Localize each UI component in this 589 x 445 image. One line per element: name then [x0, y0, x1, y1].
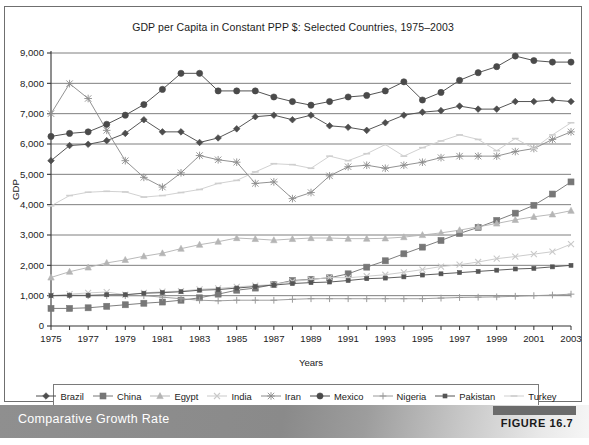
legend-item-egypt[interactable]: Egypt: [145, 390, 202, 402]
data-point: [531, 202, 537, 208]
x-tick-label: 1983: [189, 333, 210, 344]
x-tick-label: 1977: [77, 333, 98, 344]
data-point: [363, 295, 370, 302]
data-point: [317, 393, 323, 399]
data-point: [142, 291, 146, 295]
data-point: [531, 57, 537, 63]
data-point: [512, 98, 519, 105]
y-tick-label: 5,000: [20, 169, 44, 180]
data-point: [179, 290, 183, 294]
data-point: [568, 241, 574, 247]
data-point: [85, 129, 91, 135]
data-point: [345, 94, 351, 100]
y-tick-label: 0: [39, 320, 44, 331]
series-line: [51, 84, 571, 199]
legend-label: Brazil: [60, 391, 83, 402]
data-point: [177, 169, 185, 177]
x-tick-label: 1979: [115, 333, 136, 344]
series-china: [48, 179, 574, 311]
page-bottom-strip: [0, 438, 589, 445]
figure-tab-bar: [493, 406, 576, 415]
data-point: [438, 237, 444, 243]
data-point: [251, 180, 259, 188]
legend-item-india[interactable]: India: [202, 390, 255, 402]
data-point: [328, 280, 332, 284]
data-point: [159, 86, 165, 92]
data-point: [122, 112, 128, 118]
data-point: [493, 293, 500, 300]
series-line: [51, 182, 571, 308]
data-point: [549, 97, 556, 104]
legend-label: Nigeria: [397, 391, 427, 402]
data-point: [493, 106, 500, 113]
data-point: [48, 133, 54, 139]
data-point: [308, 295, 315, 302]
data-point: [494, 64, 500, 70]
data-point: [438, 107, 445, 114]
data-point: [86, 293, 90, 297]
data-point: [271, 94, 277, 100]
data-point: [382, 119, 389, 126]
x-marker-icon: [206, 390, 228, 402]
data-point: [215, 88, 221, 94]
data-point: [289, 116, 296, 123]
data-point: [234, 88, 240, 94]
x-tick-label: 1995: [412, 333, 433, 344]
data-point: [476, 269, 480, 273]
smallsquare-marker-icon: [434, 390, 456, 402]
x-tick-label: 1985: [226, 333, 247, 344]
legend-item-iran[interactable]: Iran: [256, 390, 305, 402]
data-point: [420, 273, 424, 277]
legend-label: Pakistan: [459, 391, 495, 402]
legend-item-china[interactable]: China: [88, 390, 146, 402]
data-point: [160, 291, 164, 295]
series-mexico: [48, 53, 574, 140]
data-point: [400, 161, 408, 169]
legend-item-mexico[interactable]: Mexico: [305, 390, 368, 402]
data-point: [549, 59, 555, 65]
data-point: [309, 281, 313, 285]
legend-item-brazil[interactable]: Brazil: [31, 390, 87, 402]
data-point: [401, 251, 407, 257]
data-point: [141, 116, 148, 123]
figure-number-label: FIGURE 16.7: [494, 417, 580, 429]
y-tick-label: 8,000: [20, 78, 44, 89]
series-iran: [47, 80, 575, 203]
data-point: [549, 292, 556, 299]
plot-area: 01,0002,0003,0004,0005,0006,0007,0008,00…: [5, 7, 583, 403]
legend-item-turkey[interactable]: Turkey: [499, 390, 560, 402]
legend-label: Turkey: [528, 391, 556, 402]
data-point: [84, 95, 92, 103]
data-point: [326, 172, 334, 180]
legend-label: Mexico: [334, 391, 364, 402]
data-point: [493, 152, 501, 160]
data-point: [68, 293, 72, 297]
data-point: [495, 268, 499, 272]
data-point: [215, 135, 222, 142]
data-point: [233, 126, 240, 133]
x-tick-label: 1999: [486, 333, 507, 344]
data-point: [307, 189, 315, 197]
data-point: [66, 80, 74, 88]
data-point: [419, 295, 426, 302]
data-point: [549, 191, 555, 197]
data-point: [401, 79, 407, 85]
data-point: [419, 244, 425, 250]
legend-item-nigeria[interactable]: Nigeria: [368, 390, 431, 402]
data-point: [532, 266, 536, 270]
data-point: [345, 295, 352, 302]
data-point: [475, 70, 481, 76]
data-point: [456, 77, 462, 83]
data-point: [178, 70, 184, 76]
x-tick-label: 1987: [263, 333, 284, 344]
data-point: [364, 264, 370, 270]
y-axis-title: GDP: [10, 179, 21, 200]
data-point: [122, 130, 129, 137]
data-point: [235, 286, 239, 290]
data-point: [253, 285, 257, 289]
legend-item-pakistan[interactable]: Pakistan: [430, 390, 499, 402]
data-point: [272, 283, 276, 287]
data-point: [100, 393, 106, 399]
data-point: [252, 113, 259, 120]
data-point: [85, 305, 91, 311]
